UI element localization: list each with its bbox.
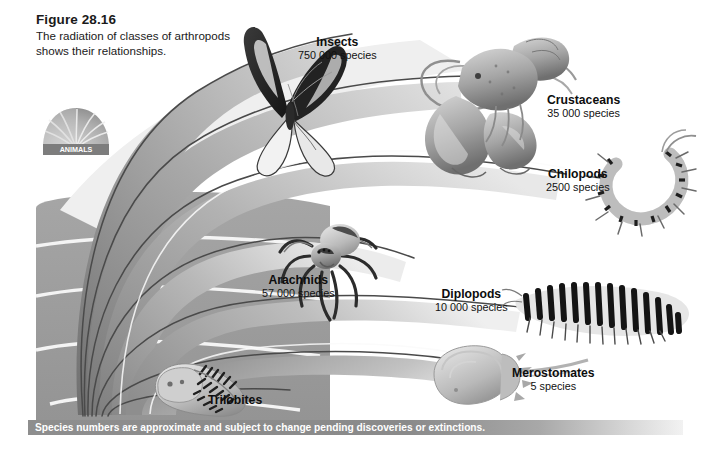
label-merostomates: Merostomates 5 species [512,367,595,392]
label-chilopods-species: 2500 species [546,181,610,194]
label-insects-name: Insects [298,36,377,49]
label-arachnids-name: Arachnids [262,274,335,287]
label-arachnids: Arachnids 57 000 species [262,274,335,299]
label-merostomates-name: Merostomates [512,367,595,380]
radiation-diagram-artwork [0,0,710,456]
label-crustaceans: Crustaceans 35 000 species [547,94,620,119]
figure-arthropod-radiation: Figure 28.16 The radiation of classes of… [0,0,710,456]
label-crustaceans-species: 35 000 species [547,107,620,120]
label-diplopods-name: Diplopods [435,288,508,301]
label-diplopods-species: 10 000 species [435,301,508,314]
animals-badge: ANIMALS [37,104,115,156]
figure-description: The radiation of classes of arthropods s… [36,29,246,58]
label-insects: Insects 750 000 species [298,36,377,61]
millipede-illustration [502,285,689,344]
label-trilobites-name: Trilobites [208,394,262,407]
label-arachnids-species: 57 000 species [262,287,335,300]
label-trilobites: Trilobites [208,394,262,407]
label-chilopods-name: Chilopods [546,168,610,181]
label-insects-species: 750 000 species [298,49,377,62]
species-note-text: Species numbers are approximate and subj… [28,422,485,433]
label-diplopods: Diplopods 10 000 species [435,288,508,313]
species-note-bar: Species numbers are approximate and subj… [28,420,683,435]
figure-number: Figure 28.16 [36,12,246,27]
animals-badge-label: ANIMALS [60,145,93,154]
figure-header: Figure 28.16 The radiation of classes of… [36,12,246,58]
label-crustaceans-name: Crustaceans [547,94,620,107]
label-merostomates-species: 5 species [512,380,595,393]
label-chilopods: Chilopods 2500 species [546,168,610,193]
